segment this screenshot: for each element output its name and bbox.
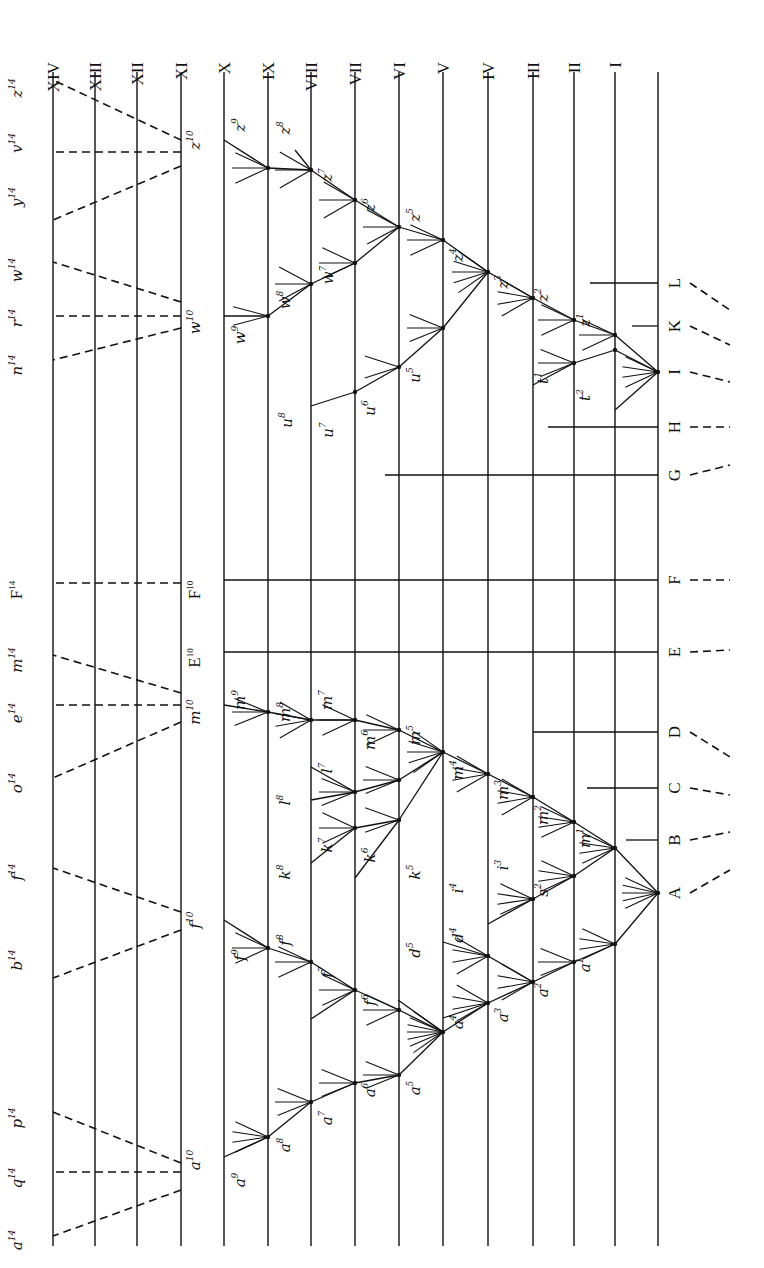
extinct-twig	[322, 720, 355, 735]
species-label: t1	[533, 372, 552, 384]
lineage-branch	[488, 982, 533, 1003]
species-label: a8	[275, 1137, 294, 1152]
species-label: u8	[277, 412, 296, 428]
generation-label: IV	[479, 61, 498, 80]
branch-node	[266, 946, 270, 950]
extinct-twig	[235, 168, 268, 183]
extinct-twig	[625, 878, 658, 893]
extinct-twig	[541, 949, 574, 963]
branch-node	[613, 846, 617, 850]
ancestral-dash	[690, 283, 730, 310]
branch-node	[441, 1030, 445, 1034]
species-label: k5	[405, 864, 424, 879]
species-label: w14	[7, 258, 26, 283]
branch-node	[572, 820, 576, 824]
lineage-branch	[268, 948, 311, 962]
species-label: a5	[405, 1080, 424, 1095]
branch-node	[309, 1100, 313, 1104]
extinct-twig	[278, 962, 311, 977]
branch-node	[266, 166, 270, 170]
branch-node	[266, 710, 270, 714]
branch-node	[309, 960, 313, 964]
ancestral-dash	[690, 372, 730, 382]
species-label: a10	[185, 1150, 204, 1171]
species-label: a3	[493, 1007, 512, 1022]
extinct-twig	[414, 752, 444, 773]
extinct-twig	[410, 328, 443, 342]
species-label: n14	[7, 354, 26, 375]
species-label: m7	[317, 690, 336, 710]
branch-node	[397, 1073, 401, 1077]
species-label: f9	[230, 949, 249, 962]
extinct-twig	[278, 1102, 311, 1116]
dashed-descent-line	[53, 655, 181, 693]
extinct-twig	[322, 792, 355, 806]
species-label: b14	[7, 949, 26, 970]
branch-node	[613, 942, 617, 946]
ancestral-species-label: A	[665, 886, 684, 899]
ancestral-species-label: E	[665, 647, 684, 657]
extinct-twig	[280, 152, 311, 170]
species-label: m8	[275, 702, 294, 722]
branch-node	[572, 874, 576, 878]
lineage-branch	[224, 140, 268, 168]
dashed-descent-line	[53, 166, 181, 220]
dashed-descent-line	[53, 80, 181, 140]
branch-node	[656, 370, 660, 374]
lineage-branch	[268, 1102, 311, 1137]
extinct-twig	[366, 715, 399, 730]
species-label: z14	[7, 78, 26, 99]
ancestral-species-label: L	[665, 278, 684, 288]
species-label: r14	[7, 308, 26, 327]
branch-node	[353, 826, 357, 830]
lineage-branch	[615, 893, 658, 944]
extinct-twig	[235, 153, 268, 168]
species-label: z7	[317, 168, 336, 183]
species-label: a7	[317, 1110, 336, 1125]
ancestral-species-label: B	[665, 834, 684, 845]
branch-node	[353, 390, 357, 394]
extinct-twig	[541, 305, 574, 320]
generation-label: XIV	[44, 61, 63, 92]
species-label: o14	[7, 772, 26, 793]
branch-node	[266, 1135, 270, 1139]
branch-node	[486, 772, 490, 776]
generation-label: VIII	[302, 62, 321, 92]
extinct-twig	[541, 962, 574, 976]
extinct-twig	[322, 990, 355, 1005]
extinct-twig	[322, 813, 355, 828]
species-label: w7	[318, 265, 337, 284]
lineage-branch	[399, 328, 443, 367]
lineage-branch	[311, 990, 355, 1019]
species-label: k7	[317, 837, 336, 852]
branch-node	[353, 988, 357, 992]
species-label: z8	[275, 121, 294, 136]
lineage-branch	[311, 792, 355, 800]
extinct-twig	[365, 808, 399, 820]
species-label: d4	[448, 927, 467, 943]
extinct-twig	[623, 885, 658, 893]
extinct-twig	[324, 200, 355, 218]
species-label: z4	[448, 248, 467, 263]
extinct-twig	[322, 779, 355, 793]
extinct-twig	[324, 182, 355, 200]
generation-label: XI	[172, 62, 191, 80]
lineage-branch	[355, 720, 399, 730]
branch-node	[309, 718, 313, 722]
ancestral-species-label: D	[665, 726, 684, 738]
species-label: p14	[7, 1107, 26, 1128]
lineage-branch	[615, 372, 658, 410]
dashed-descent-line	[53, 328, 181, 360]
branch-node	[397, 728, 401, 732]
species-label: q14	[7, 1167, 26, 1188]
branch-node	[656, 891, 660, 895]
lineage-branch	[355, 780, 399, 792]
branch-node	[441, 326, 445, 330]
ancestral-dash	[690, 465, 730, 475]
extinct-twig	[279, 267, 311, 284]
extinct-twig	[625, 893, 658, 908]
divergence-diagram: XIVXIIIXIIXIXIXVIIIVIIVIVIVIIIIII LKIHGF…	[0, 0, 764, 1268]
lineage-branch	[399, 752, 443, 820]
species-label: i3	[493, 859, 512, 870]
dashed-descent-line	[53, 1112, 181, 1163]
